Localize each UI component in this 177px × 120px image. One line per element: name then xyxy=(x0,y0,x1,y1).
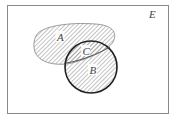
intersection-c-label: C xyxy=(83,45,91,57)
set-b-label: B xyxy=(90,64,97,76)
set-a-label: A xyxy=(56,31,64,43)
venn-diagram: A C B E xyxy=(0,0,177,120)
universe-label: E xyxy=(148,8,156,20)
